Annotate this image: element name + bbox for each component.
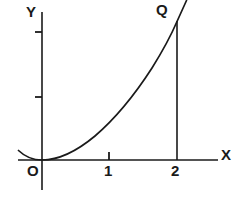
parabola-curve (19, 1, 187, 161)
x-axis-label: X (221, 147, 231, 162)
parabola-figure: Y X Q O 1 2 (0, 0, 242, 198)
origin-label: O (27, 163, 39, 178)
x-tick-label-1: 1 (104, 163, 112, 178)
x-tick-label-2: 2 (171, 163, 179, 178)
point-q-label: Q (156, 2, 168, 17)
y-axis-label: Y (26, 4, 36, 19)
